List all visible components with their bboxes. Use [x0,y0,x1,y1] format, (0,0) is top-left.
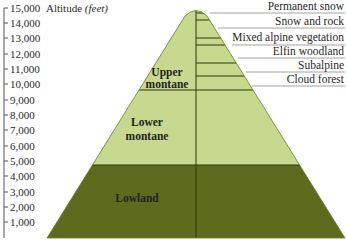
label-upper-montane-2: montane [146,78,189,90]
label-mixed-alpine-vegetation: Mixed alpine vegetation [232,31,344,44]
label-permanent-snow: Permanent snow [268,0,345,12]
tick-12000: 12,000 [10,48,41,60]
tick-14000: 14,000 [10,17,41,29]
tick-4000: 4,000 [10,170,35,182]
lowland-fill [0,165,347,245]
tick-5000: 5,000 [10,155,35,167]
label-lowland: Lowland [115,192,159,204]
tick-7000: 7,000 [10,124,35,136]
label-lower-montane-1: Lower [131,116,163,128]
tick-11000: 11,000 [10,63,40,75]
tick-8000: 8,000 [10,109,35,121]
axis-title: Altitude (feet) [46,2,108,15]
label-subalpine: Subalpine [298,59,344,72]
tick-3000: 3,000 [10,186,35,198]
altitude-pyramid-diagram: 15,000 14,000 13,000 12,000 11,000 10,00… [0,0,347,245]
label-elfin-woodland: Elfin woodland [273,45,344,57]
tick-2000: 2,000 [10,201,35,213]
label-snow-and-rock: Snow and rock [275,15,344,27]
tick-15000: 15,000 [10,2,41,14]
label-cloud-forest: Cloud forest [287,73,345,85]
tick-1000: 1,000 [10,216,35,228]
tick-9000: 9,000 [10,94,35,106]
tick-13000: 13,000 [10,32,41,44]
y-axis [4,8,8,238]
tick-6000: 6,000 [10,140,35,152]
label-lower-montane-2: montane [126,130,169,142]
tick-10000: 10,000 [10,78,41,90]
